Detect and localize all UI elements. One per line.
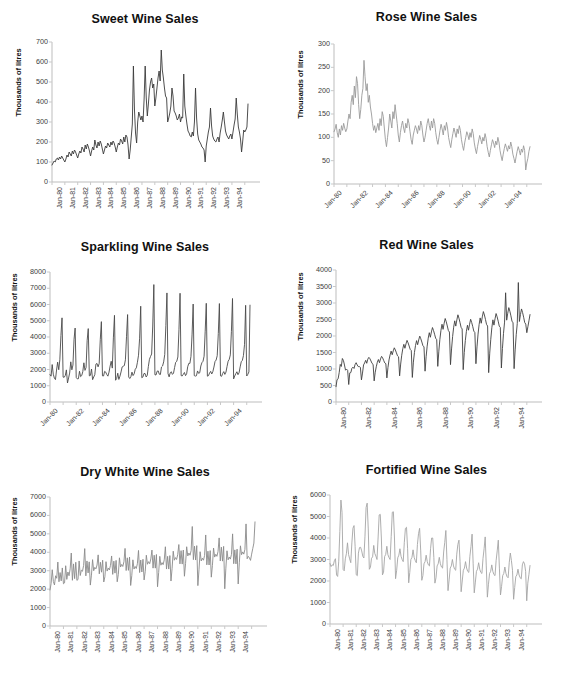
x-tick-label: Jan-93	[223, 187, 230, 221]
x-tick-label: Jan-90	[465, 629, 472, 663]
x-tick-label: Jan-85	[120, 187, 127, 221]
x-tick-label: Jan-91	[202, 631, 209, 665]
plot-area-drywhite	[50, 497, 269, 634]
x-tick-label: Jan-94	[242, 631, 249, 665]
y-tick-label: 6000	[296, 490, 326, 499]
plot-area-sparkling	[50, 272, 264, 410]
plot-area-rose	[334, 44, 544, 192]
x-tick-label: Jan-94	[518, 407, 525, 441]
x-tick-label: Jan-86	[135, 631, 142, 665]
x-tick-label: Jan-82	[365, 407, 372, 441]
y-tick-label: 500	[302, 381, 332, 390]
x-tick-label: Jan-82	[56, 407, 85, 436]
x-tick-label: Jan-80	[56, 187, 63, 221]
x-tick-label: Jan-80	[334, 629, 341, 663]
y-tick-label: 6000	[16, 510, 46, 519]
x-tick-label: Jan-83	[373, 629, 380, 663]
x-tick-label: Jan-82	[81, 631, 88, 665]
chart-title-red: Red Wine Sales	[290, 238, 563, 252]
x-tick-label: Jan-82	[82, 187, 89, 221]
x-tick-label: Jan-85	[400, 629, 407, 663]
y-tick-label: 200	[300, 86, 330, 95]
x-tick-label: Jan-90	[188, 631, 195, 665]
y-tick-label: 100	[300, 132, 330, 141]
y-tick-label: 3000	[16, 566, 46, 575]
x-tick-label: Jan-83	[95, 187, 102, 221]
x-tick-label: Jan-84	[391, 407, 398, 441]
series-line-red	[336, 283, 530, 387]
y-tick-label: 7000	[16, 283, 46, 292]
y-tick-label: 300	[18, 117, 48, 126]
x-tick-label: Jan-92	[210, 187, 217, 221]
x-tick-label: Jan-86	[133, 187, 140, 221]
x-tick-label: Jan-80	[340, 407, 347, 441]
chart-title-sweet: Sweet Wine Sales	[0, 12, 290, 26]
x-tick-label: Jan-90	[185, 187, 192, 221]
chart-panel-sweet: Sweet Wine Sales Thousands of litres0100…	[0, 0, 290, 230]
y-tick-label: 50	[300, 156, 330, 165]
x-tick-label: Jan-88	[417, 189, 446, 218]
y-tick-label: 5000	[296, 512, 326, 521]
y-tick-label: 4000	[16, 547, 46, 556]
y-tick-label: 0	[18, 177, 48, 186]
y-tick-label: 100	[18, 157, 48, 166]
x-tick-label: Jan-91	[478, 629, 485, 663]
chart-title-drywhite: Dry White Wine Sales	[0, 465, 290, 479]
x-tick-label: Jan-87	[148, 631, 155, 665]
y-tick-label: 2000	[302, 331, 332, 340]
x-tick-label: Jan-94	[214, 407, 243, 436]
x-tick-label: Jan-85	[121, 631, 128, 665]
x-tick-label: Jan-81	[67, 631, 74, 665]
x-tick-label: Jan-94	[236, 187, 243, 221]
y-tick-label: 3500	[302, 282, 332, 291]
x-tick-label: Jan-88	[159, 187, 166, 221]
y-tick-label: 0	[16, 397, 46, 406]
x-tick-label: Jan-92	[493, 407, 500, 441]
chart-title-rose: Rose Wine Sales	[290, 10, 563, 24]
x-tick-label: Jan-89	[175, 631, 182, 665]
chart-title-sparkling: Sparkling Wine Sales	[0, 240, 290, 254]
x-tick-label: Jan-92	[215, 631, 222, 665]
series-line-rose	[334, 60, 530, 170]
y-tick-label: 1500	[302, 348, 332, 357]
x-tick-label: Jan-84	[107, 187, 114, 221]
y-tick-label: 4000	[302, 265, 332, 274]
y-tick-label: 200	[18, 137, 48, 146]
y-tick-label: 700	[18, 37, 48, 46]
y-tick-label: 150	[300, 109, 330, 118]
y-tick-label: 1000	[296, 598, 326, 607]
x-tick-label: Jan-87	[426, 629, 433, 663]
y-tick-label: 4000	[16, 332, 46, 341]
x-tick-label: Jan-84	[365, 189, 394, 218]
x-tick-label: Jan-86	[109, 407, 138, 436]
y-tick-label: 2500	[302, 315, 332, 324]
x-tick-label: Jan-81	[69, 187, 76, 221]
x-tick-label: Jan-86	[416, 407, 423, 441]
x-tick-label: Jan-84	[386, 629, 393, 663]
y-tick-label: 5000	[16, 316, 46, 325]
x-tick-label: Jan-88	[162, 631, 169, 665]
x-tick-label: Jan-92	[491, 629, 498, 663]
x-tick-label: Jan-88	[439, 629, 446, 663]
y-tick-label: 2000	[296, 576, 326, 585]
x-tick-label: Jan-94	[518, 629, 525, 663]
y-tick-label: 4000	[296, 533, 326, 542]
chart-panel-drywhite: Dry White Wine Sales Thousands of litres…	[0, 455, 290, 691]
x-tick-label: Jan-93	[504, 629, 511, 663]
series-line-sparkling	[50, 285, 250, 383]
x-tick-label: Jan-80	[314, 189, 343, 218]
series-line-fortified	[330, 500, 530, 601]
x-tick-label: Jan-81	[347, 629, 354, 663]
x-tick-label: Jan-84	[82, 407, 111, 436]
y-tick-label: 0	[302, 397, 332, 406]
plot-area-sweet	[52, 42, 262, 190]
y-tick-label: 500	[18, 77, 48, 86]
chart-panel-rose: Rose Wine Sales Thousands of litres05010…	[290, 0, 563, 230]
x-tick-label: Jan-90	[161, 407, 190, 436]
y-tick-label: 2000	[16, 584, 46, 593]
x-tick-label: Jan-82	[340, 189, 369, 218]
chart-title-fortified: Fortified Wine Sales	[290, 463, 563, 477]
y-tick-label: 250	[300, 62, 330, 71]
x-tick-label: Jan-90	[442, 189, 471, 218]
y-tick-label: 600	[18, 57, 48, 66]
